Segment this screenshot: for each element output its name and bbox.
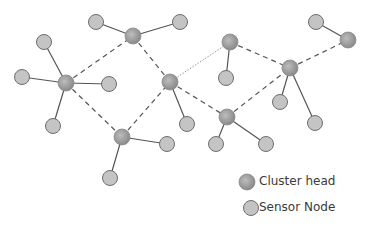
inter-cluster-link [133, 36, 170, 82]
cluster-head-node [114, 129, 130, 145]
cluster-head-node [340, 32, 356, 48]
sensor-node [160, 137, 175, 152]
cluster-head-node [222, 34, 238, 50]
sensor-node [37, 35, 52, 50]
legend-cluster-head-icon [239, 174, 255, 190]
legend-cluster-head-label: Cluster head [259, 174, 335, 188]
inter-cluster-link [230, 42, 290, 68]
sensor-node [103, 171, 118, 186]
sensor-node [219, 71, 234, 86]
sensor-node [308, 116, 323, 131]
sensor-node [46, 119, 61, 134]
sensor-node [309, 15, 324, 30]
cluster-head-node [125, 28, 141, 44]
sensor-node [89, 15, 104, 30]
sensor-node [15, 70, 30, 85]
cluster-head-node [219, 109, 235, 125]
cluster-head-node [282, 60, 298, 76]
sensor-node [259, 137, 274, 152]
inter-cluster-link [66, 83, 122, 137]
sensor-node [102, 77, 117, 92]
sensor-node [273, 95, 288, 110]
cluster-head-node [162, 74, 178, 90]
legend [239, 174, 259, 216]
sensor-node [209, 137, 224, 152]
member-link [290, 68, 315, 123]
sensor-node [173, 15, 188, 30]
inter-cluster-link [122, 82, 170, 137]
inter-cluster-link [290, 40, 348, 68]
inter-cluster-link [170, 82, 227, 117]
inter-cluster-link [66, 36, 133, 83]
legend-sensor-node-label: Sensor Node [259, 200, 335, 214]
cluster-head-node [58, 75, 74, 91]
sensor-node [180, 117, 195, 132]
sensor-network-diagram [0, 0, 375, 226]
legend-sensor-node-icon [244, 201, 259, 216]
